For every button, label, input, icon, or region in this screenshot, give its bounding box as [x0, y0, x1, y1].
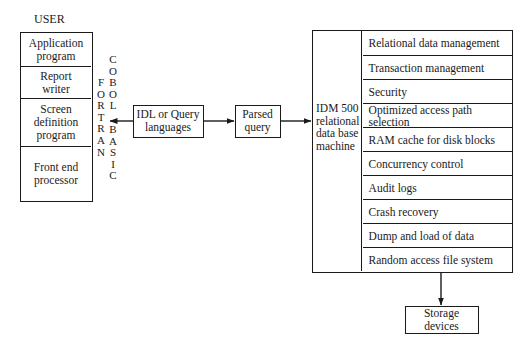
connector-arrows [0, 0, 530, 346]
